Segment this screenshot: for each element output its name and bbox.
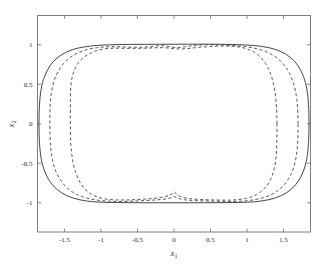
- x-tick-label: -1.5: [59, 236, 71, 244]
- y-tick-label: -1: [27, 199, 33, 207]
- figure-container: -1.5-1-0.500.511.5 -1-0.500.51 x1 x2: [0, 0, 327, 272]
- outer-solid-contour: [39, 44, 309, 203]
- y-tick-label: 1: [29, 41, 33, 49]
- y-axis-tick-labels: -1-0.500.51: [21, 41, 33, 207]
- x-tick-label: -0.5: [132, 236, 144, 244]
- x-tick-label: -1: [98, 236, 104, 244]
- contour-curves: [39, 44, 309, 203]
- x-tick-label: 1.5: [279, 236, 288, 244]
- inner-dashed-contour: [70, 46, 277, 200]
- y-tick-label: -0.5: [21, 160, 33, 168]
- x-tick-label: 0: [172, 236, 176, 244]
- chart-canvas: -1.5-1-0.500.511.5 -1-0.500.51 x1 x2: [0, 0, 327, 272]
- y-tick-label: 0.5: [24, 81, 33, 89]
- y-axis-title: x2: [6, 121, 17, 129]
- y-axis-ticks: [38, 45, 311, 203]
- y-tick-label: 0: [29, 120, 33, 128]
- x-tick-label: 1: [245, 236, 249, 244]
- middle-dashed-contour: [50, 45, 298, 202]
- x-axis-tick-labels: -1.5-1-0.500.511.5: [59, 236, 288, 244]
- x-tick-label: 0.5: [206, 236, 215, 244]
- x-axis-title: x1: [170, 248, 178, 259]
